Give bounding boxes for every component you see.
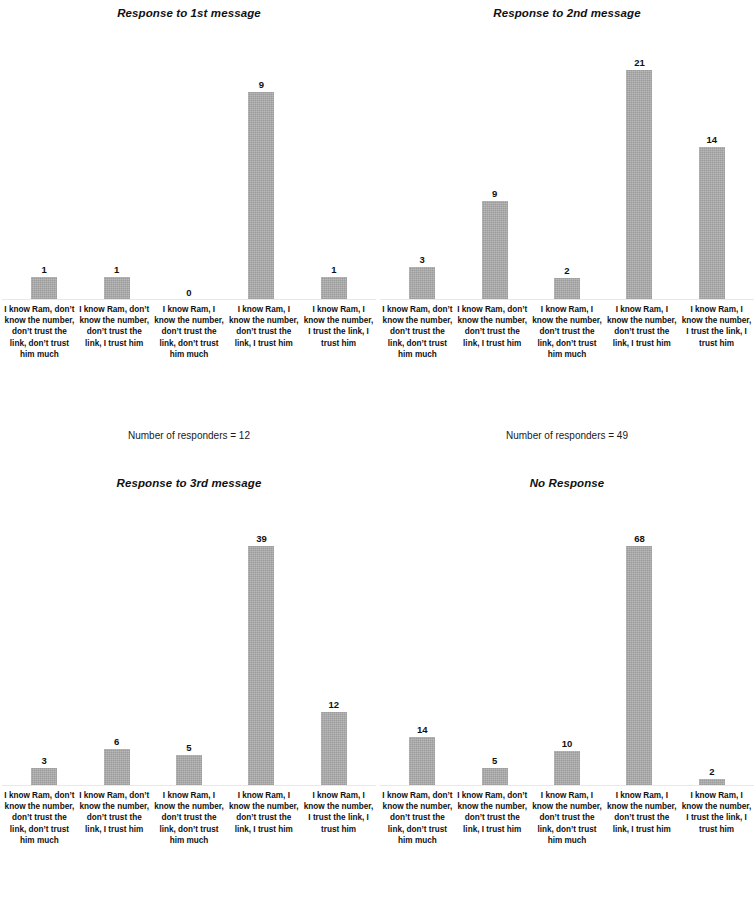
bar-slot: 1 <box>80 24 152 300</box>
category-labels-4: I know Ram, don’t know the number, don’t… <box>378 786 756 846</box>
bar <box>626 546 652 786</box>
bar-slot: 3 <box>386 24 458 300</box>
plot-area-1: 11091 <box>0 24 378 300</box>
chart-panel-4: No Response 14510682 I know Ram, don’t k… <box>378 470 756 903</box>
category-label: I know Ram, I know the number, I trust t… <box>301 304 376 360</box>
bar <box>554 751 580 786</box>
bar-group-2: 3922114 <box>378 24 756 300</box>
bar <box>699 147 725 300</box>
bar-slot: 12 <box>298 494 370 786</box>
chart-title-3: Response to 3rd message <box>0 470 378 494</box>
bar <box>409 737 435 786</box>
plot-area-2: 3922114 <box>378 24 756 300</box>
bar-value-label: 39 <box>256 533 267 544</box>
bar <box>176 755 202 786</box>
bar-slot: 21 <box>603 24 675 300</box>
chart-title-2: Response to 2nd message <box>378 0 756 24</box>
category-label: I know Ram, don’t know the number, don’t… <box>455 790 530 846</box>
bar <box>482 768 508 786</box>
category-label: I know Ram, I know the number, don’t tru… <box>226 790 301 846</box>
bar-slot: 68 <box>603 494 675 786</box>
chart-title-1: Response to 1st message <box>0 0 378 24</box>
category-labels-3: I know Ram, don’t know the number, don’t… <box>0 786 378 846</box>
bar <box>409 267 435 300</box>
bar-slot: 0 <box>153 24 225 300</box>
bar <box>626 70 652 300</box>
figure-canvas: Response to 1st message 11091 I know Ram… <box>0 0 756 903</box>
bar-value-label: 10 <box>562 738 573 749</box>
bar-value-label: 9 <box>259 79 264 90</box>
bar-group-3: 3653912 <box>0 494 378 786</box>
baseline-1 <box>2 299 376 300</box>
chart-panel-2: Response to 2nd message 3922114 I know R… <box>378 0 756 455</box>
chart-title-4: No Response <box>378 470 756 494</box>
bar-value-label: 5 <box>492 755 497 766</box>
chart-panel-1: Response to 1st message 11091 I know Ram… <box>0 0 378 455</box>
category-label: I know Ram, I know the number, don’t tru… <box>530 790 605 846</box>
category-label: I know Ram, I know the number, I trust t… <box>679 304 754 360</box>
bar-value-label: 6 <box>114 736 119 747</box>
bar-value-label: 3 <box>420 254 425 265</box>
bar-value-label: 9 <box>492 188 497 199</box>
bar-value-label: 1 <box>42 264 47 275</box>
category-label: I know Ram, I know the number, don’t tru… <box>604 304 679 360</box>
category-label: I know Ram, don’t know the number, don’t… <box>77 790 152 846</box>
bar-slot: 2 <box>676 494 748 786</box>
category-label: I know Ram, don’t know the number, don’t… <box>380 304 455 360</box>
bar <box>554 278 580 300</box>
bar-value-label: 68 <box>634 533 645 544</box>
category-label: I know Ram, I know the number, don’t tru… <box>226 304 301 360</box>
category-label: I know Ram, I know the number, don’t tru… <box>152 790 227 846</box>
bar-value-label: 2 <box>709 766 714 777</box>
bar-slot: 2 <box>531 24 603 300</box>
bar <box>321 277 347 300</box>
bar <box>104 749 130 786</box>
category-label: I know Ram, don’t know the number, don’t… <box>455 304 530 360</box>
bar-value-label: 0 <box>186 287 191 298</box>
bar-value-label: 14 <box>417 724 428 735</box>
category-label: I know Ram, don’t know the number, don’t… <box>77 304 152 360</box>
bar <box>104 277 130 300</box>
bar-value-label: 3 <box>42 755 47 766</box>
bar-group-4: 14510682 <box>378 494 756 786</box>
bar-slot: 1 <box>298 24 370 300</box>
bar-slot: 5 <box>153 494 225 786</box>
category-labels-2: I know Ram, don’t know the number, don’t… <box>378 300 756 360</box>
bar-slot: 14 <box>386 494 458 786</box>
bar-value-label: 5 <box>186 742 191 753</box>
bar <box>31 277 57 300</box>
bar-slot: 5 <box>458 494 530 786</box>
category-label: I know Ram, I know the number, don’t tru… <box>152 304 227 360</box>
plot-area-4: 14510682 <box>378 494 756 786</box>
bar <box>321 712 347 786</box>
bar <box>482 201 508 300</box>
bar-slot: 14 <box>676 24 748 300</box>
category-label: I know Ram, I know the number, don’t tru… <box>530 304 605 360</box>
bar-group-1: 11091 <box>0 24 378 300</box>
baseline-3 <box>2 785 376 786</box>
bar-slot: 1 <box>8 24 80 300</box>
category-label: I know Ram, don’t know the number, don’t… <box>380 790 455 846</box>
bar-slot: 10 <box>531 494 603 786</box>
category-label: I know Ram, don’t know the number, don’t… <box>2 304 77 360</box>
bar-value-label: 1 <box>331 264 336 275</box>
bar-value-label: 21 <box>634 57 645 68</box>
bar-value-label: 14 <box>707 134 718 145</box>
responder-count-1: Number of responders = 12 <box>0 430 378 441</box>
bar-slot: 3 <box>8 494 80 786</box>
category-label: I know Ram, I know the number, don’t tru… <box>604 790 679 846</box>
bar <box>31 768 57 787</box>
baseline-2 <box>380 299 754 300</box>
bar-slot: 39 <box>225 494 297 786</box>
bar <box>248 92 274 300</box>
bar-value-label: 12 <box>329 699 340 710</box>
bar <box>248 546 274 786</box>
category-label: I know Ram, I know the number, I trust t… <box>679 790 754 846</box>
bar-value-label: 1 <box>114 264 119 275</box>
plot-area-3: 3653912 <box>0 494 378 786</box>
bar-slot: 6 <box>80 494 152 786</box>
chart-panel-3: Response to 3rd message 3653912 I know R… <box>0 470 378 903</box>
baseline-4 <box>380 785 754 786</box>
bar-slot: 9 <box>225 24 297 300</box>
category-labels-1: I know Ram, don’t know the number, don’t… <box>0 300 378 360</box>
